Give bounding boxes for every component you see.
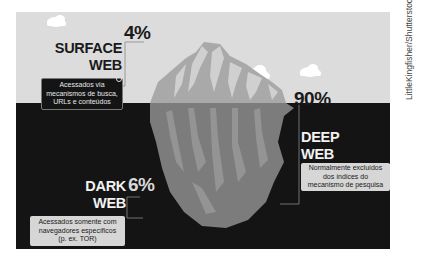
cloud-icon [300,64,321,77]
deep-web-title: DEEP WEB [301,130,339,161]
magnifier-icon [116,76,122,82]
dark-connector [127,197,143,218]
iceberg-infographic: SURFACE WEB 4% Acessados via mecanismos … [16,12,390,249]
surface-web-title: SURFACE WEB [44,41,122,72]
dark-web-description: Acessados somente com navegadores especí… [30,216,125,246]
surface-web-percent: 4% [124,23,150,42]
cloud-icon [47,15,66,27]
deep-web-description: Normalmente excluídos dos índices do mec… [301,163,390,191]
deep-web-percent: 90% [294,89,331,108]
surface-web-description: Acessados via mecanismos de busca, URLs … [41,78,123,110]
pin-icon [388,164,390,167]
dark-web-percent: 6% [128,175,154,194]
image-credit: LittleKingfisher/Shutterstock [404,0,414,100]
dark-web-title: DARK WEB [81,179,126,210]
